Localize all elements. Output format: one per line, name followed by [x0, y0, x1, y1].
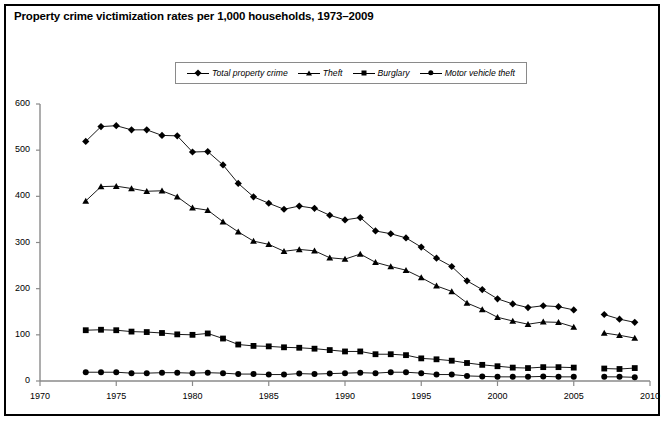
data-point: [266, 343, 272, 349]
data-point: [205, 331, 211, 337]
data-point: [433, 283, 440, 289]
data-point: [327, 371, 333, 377]
data-point: [83, 327, 89, 333]
data-point: [129, 370, 135, 376]
data-point: [159, 370, 165, 376]
data-point: [571, 374, 577, 380]
y-axis-tick-label: 400: [4, 190, 30, 200]
data-point: [341, 216, 348, 223]
data-point: [373, 370, 379, 376]
data-point: [220, 218, 227, 224]
data-point: [98, 369, 104, 375]
data-point: [312, 371, 318, 377]
y-axis-tick-label: 200: [4, 283, 30, 293]
data-point: [113, 327, 119, 333]
data-point: [235, 371, 241, 377]
data-point: [190, 370, 196, 376]
data-point: [525, 374, 531, 380]
data-point: [464, 300, 471, 306]
data-point: [617, 366, 623, 372]
data-point: [280, 206, 287, 213]
data-point: [449, 358, 455, 364]
data-point: [418, 355, 424, 361]
data-point: [448, 288, 455, 294]
data-point: [342, 370, 348, 376]
data-point: [250, 238, 257, 244]
data-point: [570, 306, 577, 313]
data-point: [83, 369, 89, 375]
y-axis-tick-label: 500: [4, 144, 30, 154]
data-point: [159, 330, 165, 336]
x-axis-tick-label: 1995: [401, 391, 441, 401]
data-point: [632, 374, 638, 380]
data-point: [510, 365, 516, 371]
line-chart-plot: [0, 0, 668, 422]
data-point: [525, 365, 531, 371]
x-axis-tick-label: 2010: [630, 391, 668, 401]
data-point: [433, 255, 440, 262]
data-point: [326, 254, 333, 260]
data-point: [98, 327, 104, 333]
x-axis-tick-label: 2000: [478, 391, 518, 401]
data-point: [601, 374, 607, 380]
data-point: [403, 369, 409, 375]
chart-series: [82, 122, 638, 380]
data-point: [326, 212, 333, 219]
data-point: [113, 369, 119, 375]
data-point: [510, 374, 516, 380]
data-point: [601, 366, 607, 372]
data-point: [464, 373, 470, 379]
data-point: [402, 234, 409, 241]
data-point: [479, 362, 485, 368]
data-point: [616, 316, 623, 323]
data-point: [540, 373, 546, 379]
data-point: [296, 345, 302, 351]
data-point: [479, 286, 486, 293]
data-point: [418, 244, 425, 251]
data-point: [235, 342, 241, 348]
data-point: [494, 314, 501, 320]
data-point: [357, 251, 364, 257]
data-point: [251, 371, 257, 377]
data-point: [449, 372, 455, 378]
y-axis-tick-label: 300: [4, 237, 30, 247]
data-point: [555, 303, 562, 310]
data-point: [281, 372, 287, 378]
data-point: [174, 370, 180, 376]
data-point: [556, 374, 562, 380]
data-point: [418, 370, 424, 376]
data-point: [601, 330, 608, 336]
x-axis-tick-label: 1975: [96, 391, 136, 401]
data-point: [388, 351, 394, 357]
data-point: [158, 132, 165, 139]
data-point: [632, 365, 638, 371]
data-point: [265, 200, 272, 207]
y-axis-tick-label: 600: [4, 98, 30, 108]
data-point: [434, 372, 440, 378]
x-axis-tick-label: 1990: [325, 391, 365, 401]
data-point: [524, 304, 531, 311]
data-point: [434, 356, 440, 362]
data-point: [296, 371, 302, 377]
data-point: [205, 370, 211, 376]
data-point: [342, 349, 348, 355]
data-point: [220, 336, 226, 342]
data-point: [357, 370, 363, 376]
data-point: [495, 363, 501, 369]
data-point: [296, 246, 303, 252]
data-point: [540, 364, 546, 370]
x-axis-tick-label: 1985: [249, 391, 289, 401]
data-point: [617, 374, 623, 380]
data-point: [143, 126, 150, 133]
chart-axes: [36, 104, 650, 386]
data-point: [556, 364, 562, 370]
data-point: [235, 229, 242, 235]
data-point: [174, 331, 180, 337]
data-point: [357, 349, 363, 355]
x-axis-tick-label: 1980: [173, 391, 213, 401]
data-point: [113, 122, 120, 129]
data-point: [129, 329, 135, 335]
data-point: [251, 343, 257, 349]
x-axis-tick-label: 1970: [20, 391, 60, 401]
data-point: [128, 126, 135, 133]
